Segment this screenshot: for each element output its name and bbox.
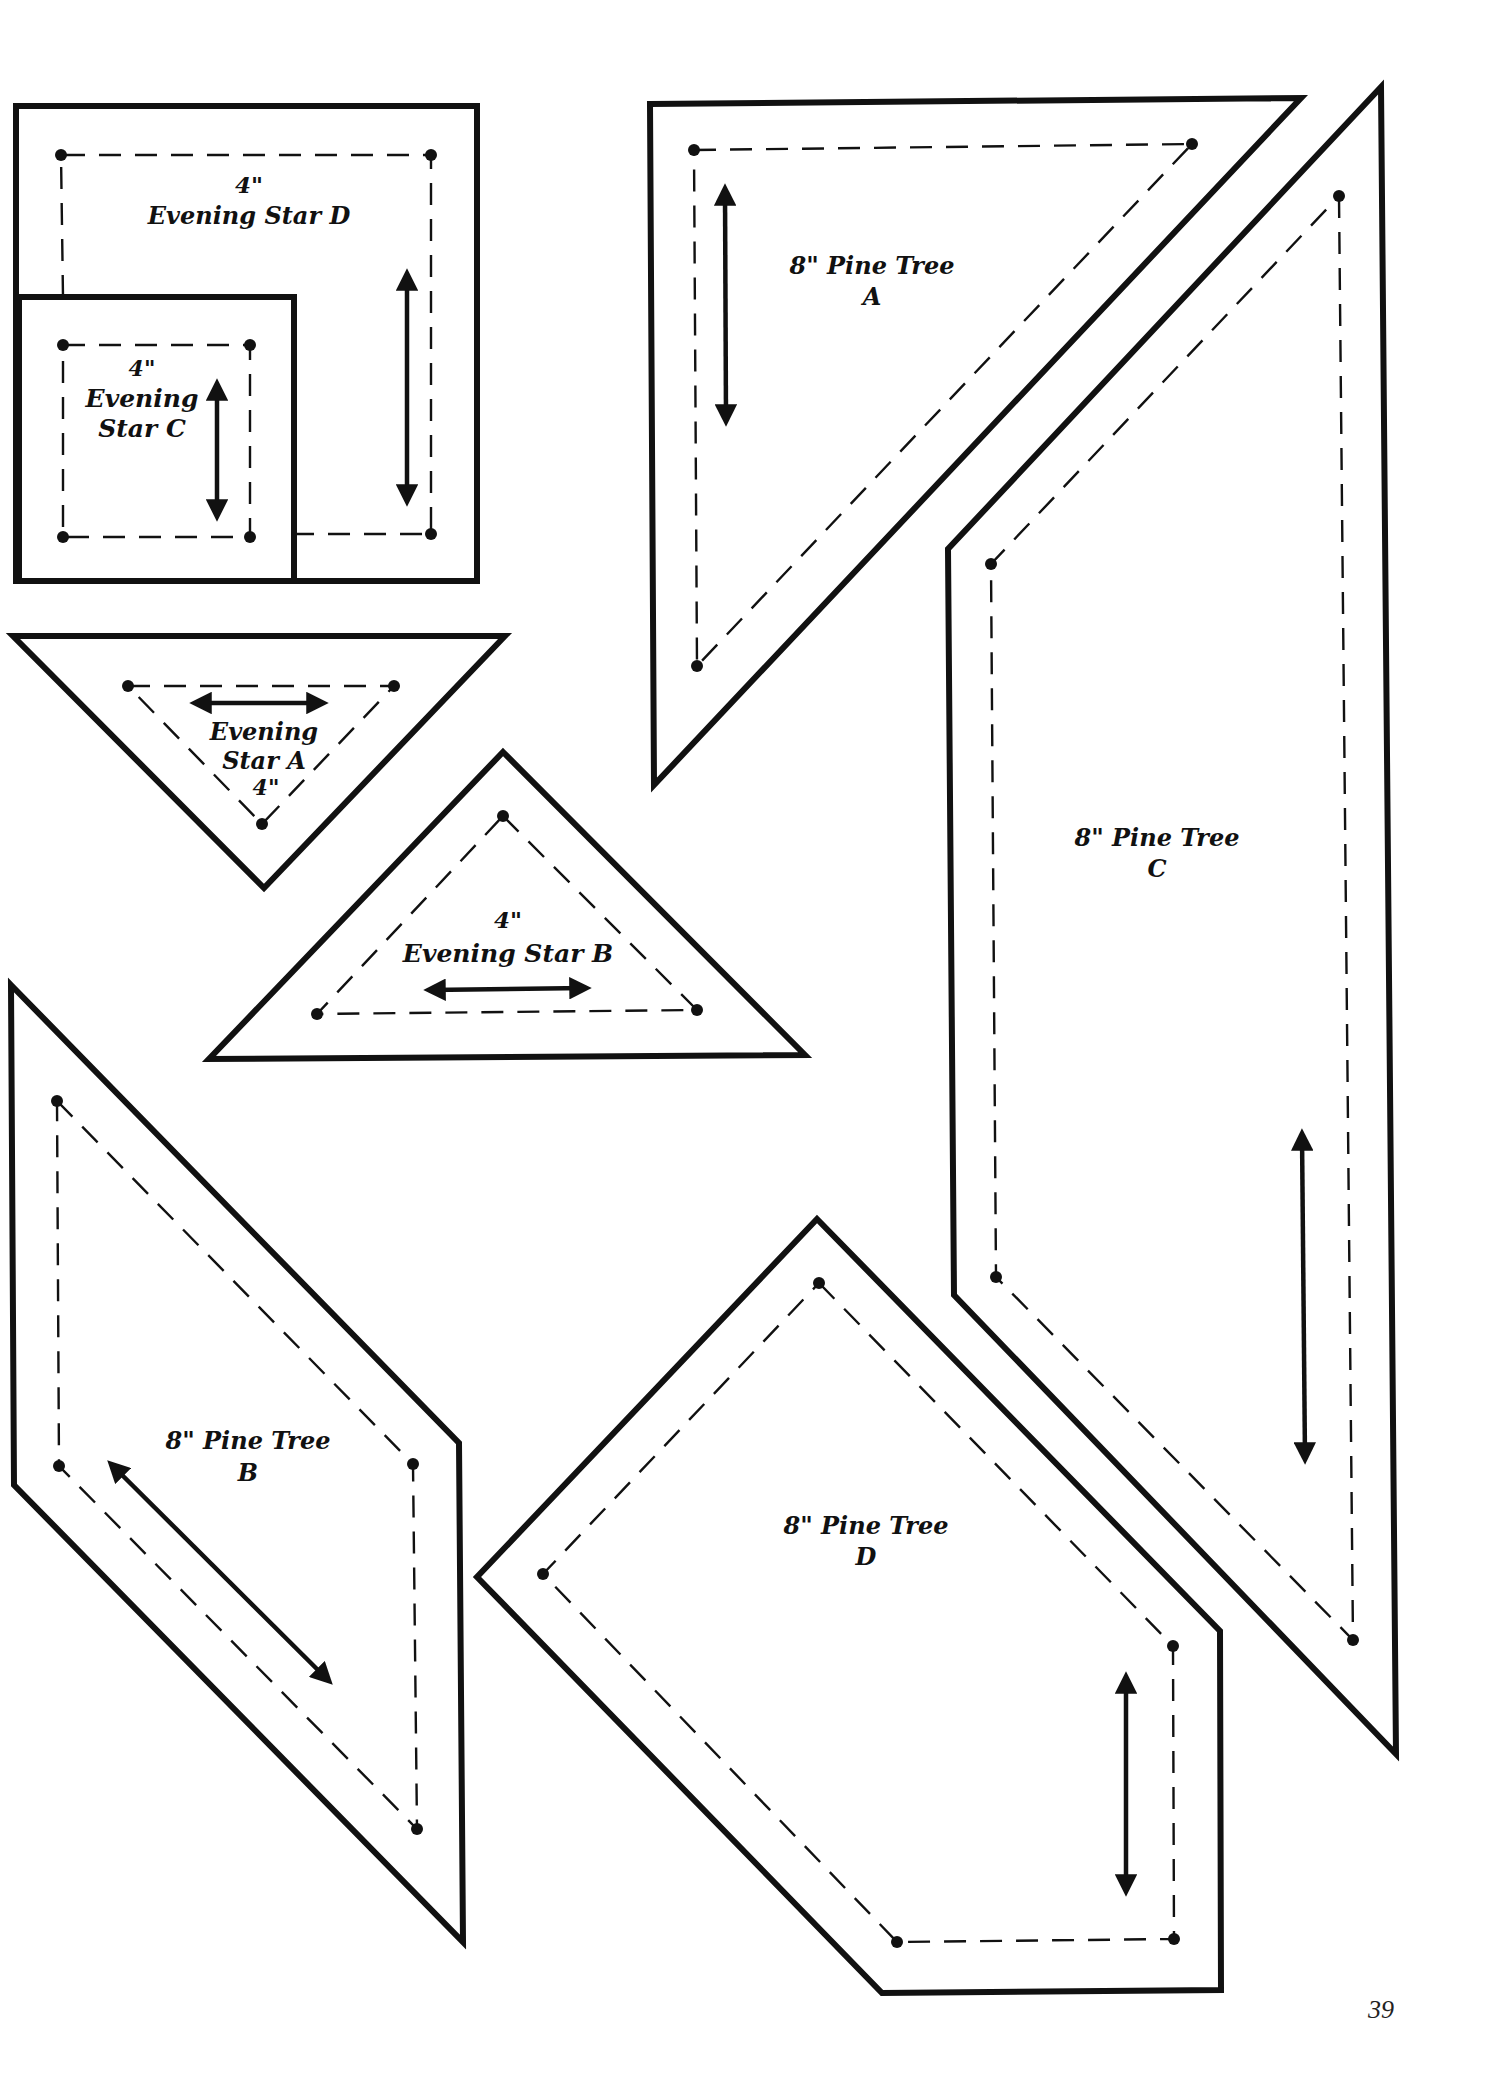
template-evening-star-c: 4" Evening Star C xyxy=(19,297,294,581)
template-label: 4" xyxy=(253,774,280,800)
template-label: 8" Pine Tree xyxy=(164,1426,330,1455)
grainline-arrow-icon xyxy=(725,190,726,420)
template-pine-tree-b: 8" Pine Tree B xyxy=(11,985,463,1942)
template-label: Evening Star B xyxy=(402,939,613,968)
template-label: Star C xyxy=(98,414,186,443)
template-label: 8" Pine Tree xyxy=(788,251,954,280)
template-label: 8" Pine Tree xyxy=(782,1511,948,1540)
template-label: Evening Star D xyxy=(147,201,351,230)
template-label: Evening xyxy=(209,717,318,746)
template-label: 4" xyxy=(129,355,156,381)
template-label: C xyxy=(1147,854,1166,883)
template-label: A xyxy=(861,282,882,311)
template-label: Star A xyxy=(222,746,306,775)
template-label: D xyxy=(855,1542,877,1571)
pattern-sheet: 4" Evening Star D 4" Evening Star C Even… xyxy=(0,0,1498,2100)
template-label: B xyxy=(237,1458,258,1487)
page-number: 39 xyxy=(1367,1995,1394,2024)
template-label: 4" xyxy=(494,906,522,933)
grainline-arrow-icon xyxy=(430,988,585,990)
template-label: 4" xyxy=(235,171,263,198)
template-label: 8" Pine Tree xyxy=(1073,823,1239,852)
template-label: Evening xyxy=(85,384,199,413)
grainline-arrow-icon xyxy=(1302,1135,1305,1458)
